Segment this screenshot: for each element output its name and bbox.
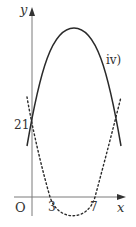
y-axis-label: y	[20, 3, 27, 16]
solid-parabola-iv	[27, 28, 121, 146]
origin-label: O	[15, 201, 26, 214]
y-axis-arrow-icon	[29, 7, 35, 16]
graph-canvas	[0, 0, 136, 227]
graph-figure: y iv) 21 O 3 7 x	[0, 0, 136, 227]
x-axis-label: x	[117, 201, 124, 214]
dashed-parabola	[27, 97, 121, 216]
x-tick-label-3: 3	[48, 201, 56, 213]
x-tick-label-7: 7	[90, 201, 98, 213]
y-tick-label-21: 21	[14, 119, 29, 131]
curve-label-iv: iv)	[106, 54, 121, 66]
